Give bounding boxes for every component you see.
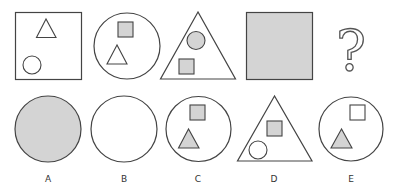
inner-circle-shape [187, 32, 205, 50]
option-label: C [195, 174, 201, 184]
inner-square-shape [179, 59, 194, 74]
sequence-figure-3 [161, 12, 236, 79]
option-d[interactable]: D [238, 96, 313, 184]
sequence-row: ? [16, 12, 367, 83]
option-b[interactable]: B [91, 96, 157, 184]
inner-square-shape [350, 105, 365, 120]
sequence-figure-5: ? [336, 18, 366, 83]
inner-square-shape [267, 121, 282, 136]
inner-circle-shape [249, 141, 267, 159]
inner-circle-shape [23, 56, 41, 74]
outer-square-shape [247, 13, 313, 80]
option-label: A [45, 174, 52, 184]
sequence-figure-1 [16, 13, 82, 80]
option-a[interactable]: A [15, 96, 81, 184]
outer-circle-shape [91, 96, 157, 162]
question-mark-icon: ? [336, 18, 366, 83]
option-e[interactable]: E [319, 97, 383, 184]
outer-circle-shape [15, 96, 81, 162]
inner-square-shape [190, 105, 205, 120]
option-label: E [348, 174, 354, 184]
sequence-figure-4 [247, 13, 313, 80]
option-c[interactable]: C [166, 97, 231, 185]
option-label: B [121, 174, 127, 184]
option-label: D [271, 174, 278, 184]
options-row: A B C D E [15, 96, 383, 184]
figure-reasoning-puzzle: ? A B C D [0, 0, 397, 194]
inner-square-shape [118, 22, 133, 37]
sequence-figure-2 [94, 13, 160, 79]
